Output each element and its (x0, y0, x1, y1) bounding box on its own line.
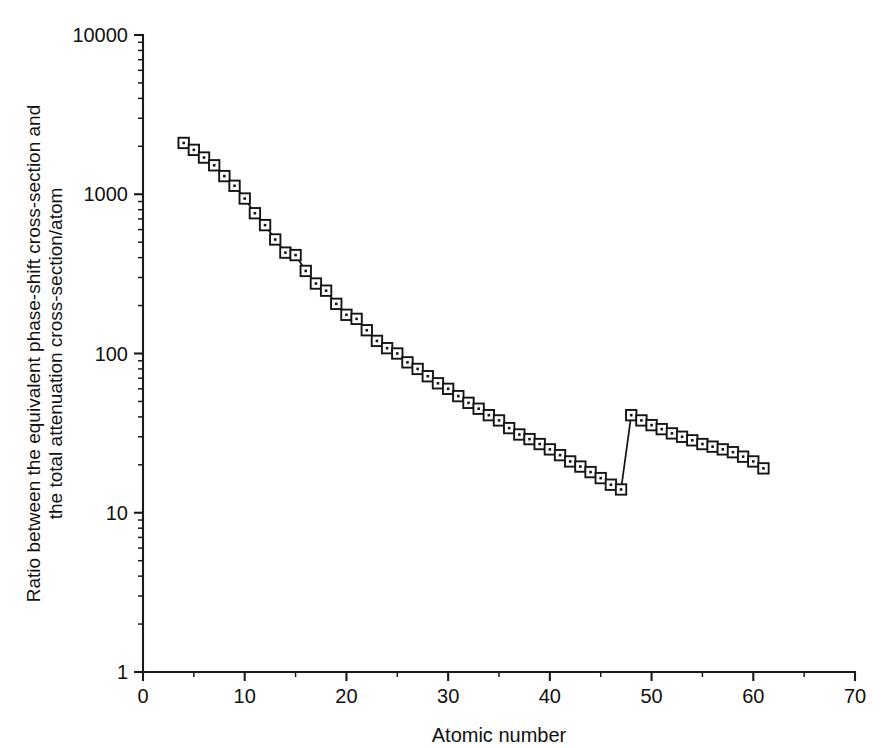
data-point-marker-dot (477, 407, 480, 410)
data-point-marker-dot (589, 471, 592, 474)
data-point-marker-dot (488, 414, 491, 417)
data-point-marker-dot (335, 303, 338, 306)
x-tick-label: 60 (742, 685, 764, 707)
data-point-marker-dot (457, 395, 460, 398)
data-point-marker-dot (599, 477, 602, 480)
data-point-marker-dot (427, 375, 430, 378)
data-point-marker-dot (559, 454, 562, 457)
y-axis-title-line-1: Ratio between the equivalent phase-shift… (23, 105, 44, 602)
data-point-marker-dot (406, 361, 409, 364)
data-point-marker-dot (315, 282, 318, 285)
data-point-marker-dot (498, 419, 501, 422)
data-point-marker-dot (264, 224, 267, 227)
data-point-marker-dot (650, 424, 653, 427)
data-point-marker-dot (681, 435, 684, 438)
data-point-marker-dot (742, 455, 745, 458)
data-point-marker-dot (294, 254, 297, 257)
x-tick-label: 30 (437, 685, 459, 707)
data-point-marker-dot (193, 149, 196, 152)
data-point-marker-dot (732, 451, 735, 454)
data-point-marker-dot (365, 329, 368, 332)
data-point-marker-dot (376, 340, 379, 343)
x-tick-label: 0 (137, 685, 148, 707)
y-tick-label: 10000 (72, 24, 128, 46)
x-tick-label: 20 (335, 685, 357, 707)
data-point-marker-dot (284, 251, 287, 254)
data-point-marker-dot (355, 318, 358, 321)
y-tick-label: 1000 (84, 183, 129, 205)
data-point-marker-dot (640, 419, 643, 422)
y-axis-title-line-2: the total attenuation cross-section/atom (45, 188, 66, 520)
data-point-marker-dot (345, 313, 348, 316)
data-point-marker-dot (752, 460, 755, 463)
data-point-marker-dot (518, 433, 521, 436)
data-point-marker-dot (660, 428, 663, 431)
axis-spines (143, 35, 855, 672)
data-point-marker-dot (538, 443, 541, 446)
chart-plot-area: 110100100010000010203040506070Atomic num… (0, 0, 883, 748)
y-tick-label: 100 (95, 343, 128, 365)
series-discontinuity-connector (621, 415, 631, 489)
data-point-marker-dot (549, 448, 552, 451)
data-point-marker-dot (304, 270, 307, 273)
data-point-marker-dot (437, 382, 440, 385)
data-point-marker-dot (467, 402, 470, 405)
data-point-marker-dot (721, 448, 724, 451)
y-tick-label: 1 (117, 661, 128, 683)
data-point-marker-dot (508, 427, 511, 430)
data-point-marker-dot (711, 445, 714, 448)
data-point-marker-dot (274, 238, 277, 241)
data-point-marker-dot (762, 467, 765, 470)
data-point-marker-dot (416, 368, 419, 371)
data-point-marker-dot (691, 439, 694, 442)
chart-figure: 110100100010000010203040506070Atomic num… (0, 0, 883, 748)
data-point-marker-dot (213, 164, 216, 167)
data-point-marker-dot (182, 142, 185, 145)
x-tick-label: 40 (539, 685, 561, 707)
data-point-marker-dot (447, 388, 450, 391)
data-point-marker-dot (620, 488, 623, 491)
data-point-marker-dot (203, 156, 206, 159)
data-point-marker-dot (243, 197, 246, 200)
y-tick-label: 10 (106, 502, 128, 524)
data-point-marker-dot (386, 347, 389, 350)
x-axis-title: Atomic number (432, 724, 567, 746)
x-tick-label: 10 (234, 685, 256, 707)
data-point-marker-dot (254, 212, 257, 215)
data-point-marker-dot (233, 184, 236, 187)
data-point-marker-dot (579, 465, 582, 468)
x-tick-label: 50 (640, 685, 662, 707)
data-point-marker-dot (610, 483, 613, 486)
data-point-marker-dot (569, 460, 572, 463)
data-point-marker-dot (630, 414, 633, 417)
data-point-marker-dot (223, 175, 226, 178)
x-tick-label: 70 (844, 685, 866, 707)
data-point-marker-dot (671, 432, 674, 435)
data-point-marker-dot (701, 443, 704, 446)
data-point-marker-dot (396, 352, 399, 355)
data-point-marker-dot (528, 438, 531, 441)
data-point-marker-dot (325, 289, 328, 292)
